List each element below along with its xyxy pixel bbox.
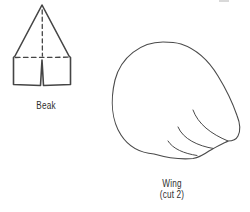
wing-piece-label: Wing (cut 2) <box>149 178 196 199</box>
wing-feather-line-1 <box>193 110 228 141</box>
pattern-sheet: Beak Wing (cut 2) <box>0 0 250 212</box>
wing-piece <box>112 42 239 159</box>
wing-piece-cut-note: (cut 2) <box>149 189 196 199</box>
beak-piece-label: Beak <box>23 100 70 110</box>
wing-outline <box>112 42 239 159</box>
scan-artifact-mark <box>219 0 229 2</box>
beak-piece <box>14 5 71 86</box>
wing-feather-line-3 <box>168 141 197 156</box>
